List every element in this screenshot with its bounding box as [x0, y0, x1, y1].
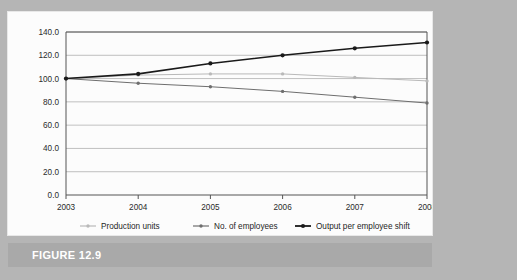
- y-axis-tick-label: 80.0: [43, 98, 59, 107]
- data-point-marker: [136, 72, 140, 76]
- data-point-marker: [281, 72, 284, 75]
- data-point-marker: [353, 46, 357, 50]
- y-axis-tick-label: 100.0: [39, 75, 60, 84]
- data-point-marker: [425, 40, 429, 44]
- data-point-marker: [281, 53, 285, 57]
- y-axis-tick-label: 40.0: [43, 144, 59, 153]
- legend-marker: [199, 224, 202, 227]
- series-line: [66, 79, 427, 103]
- x-axis-tick-label: 2007: [346, 203, 365, 212]
- x-axis-tick-label: 2008: [418, 203, 432, 212]
- data-point-marker: [353, 76, 356, 79]
- legend-label: Production units: [101, 222, 160, 231]
- figure-caption-label: FIGURE 12.9: [32, 249, 101, 261]
- data-point-marker: [425, 101, 428, 104]
- data-point-marker: [281, 90, 284, 93]
- y-axis-tick-label: 140.0: [39, 28, 60, 37]
- data-point-marker: [425, 79, 428, 82]
- data-point-marker: [353, 96, 356, 99]
- legend-label: Output per employee shift: [316, 222, 410, 231]
- data-point-marker: [137, 82, 140, 85]
- x-axis-tick-label: 2004: [129, 203, 148, 212]
- y-axis-tick-label: 0.0: [48, 191, 60, 200]
- y-axis-tick-label: 120.0: [39, 51, 60, 60]
- data-point-marker: [209, 85, 212, 88]
- legend-marker: [86, 224, 89, 227]
- line-chart: 0.020.040.060.080.0100.0120.0140.0200320…: [8, 12, 432, 235]
- legend-marker: [301, 224, 305, 228]
- data-point-marker: [64, 76, 68, 80]
- y-axis-tick-label: 20.0: [43, 168, 59, 177]
- x-axis-tick-label: 2003: [57, 203, 76, 212]
- series-line: [66, 42, 427, 78]
- data-point-marker: [208, 61, 212, 65]
- data-point-marker: [209, 72, 212, 75]
- x-axis-tick-label: 2005: [201, 203, 220, 212]
- x-axis-tick-label: 2006: [273, 203, 292, 212]
- y-axis-tick-label: 60.0: [43, 121, 59, 130]
- legend-label: No. of employees: [214, 222, 278, 231]
